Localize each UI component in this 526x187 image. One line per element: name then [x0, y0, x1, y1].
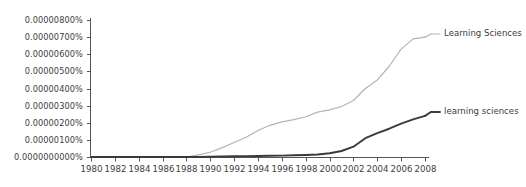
y-axis-tick-label: 0.00000100% [0, 135, 83, 145]
y-axis-tick-label: 0.00000600% [0, 49, 83, 59]
series-line-1 [91, 37, 425, 157]
y-axis-tick-label: 0.00000300% [0, 101, 83, 111]
y-axis-tick-label: 0.00000400% [0, 84, 83, 94]
y-axis-tick-label: 0.00000500% [0, 66, 83, 76]
y-axis-tick-label: 0.00000200% [0, 118, 83, 128]
ngram-line-chart: 0.00000800%0.00000700%0.00000600%0.00000… [0, 0, 526, 187]
x-axis-tick-label: 2008 [410, 164, 442, 174]
data-series [91, 37, 425, 157]
legend-connector-2 [425, 112, 431, 116]
series-line-2 [91, 116, 425, 157]
legend-connector-1 [425, 34, 431, 37]
y-axis-tick-label: 0.0000000000% [0, 152, 83, 162]
legend-label-2: learning sciences [444, 106, 519, 116]
legend-label-1: Learning Sciences [444, 28, 522, 38]
legend-line-swatches [425, 34, 440, 116]
y-axis-tick-label: 0.00000800% [0, 15, 83, 25]
y-axis-tick-label: 0.00000700% [0, 32, 83, 42]
axes [87, 18, 429, 162]
